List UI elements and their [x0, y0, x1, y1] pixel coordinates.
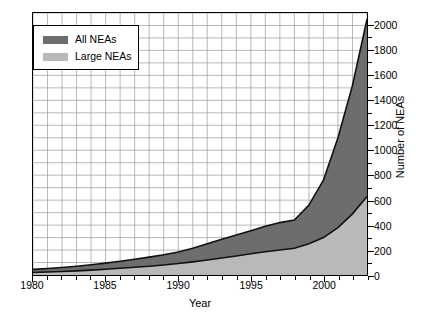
y-axis-tick-label: 800 — [374, 170, 392, 181]
legend-label-large-neas: Large NEAs — [75, 51, 132, 62]
y-axis-minor-tick — [368, 188, 372, 189]
legend-item-large-neas: Large NEAs — [43, 48, 138, 65]
legend-item-all-neas: All NEAs — [43, 31, 138, 48]
light-gray-swatch — [43, 53, 68, 61]
x-axis-tick-label: 1980 — [20, 280, 43, 291]
y-axis-minor-tick — [368, 238, 372, 239]
x-axis-tick-label: 1995 — [239, 280, 262, 291]
x-axis-minor-tick — [222, 276, 223, 280]
y-axis-minor-tick — [368, 163, 372, 164]
y-axis-minor-tick — [368, 113, 372, 114]
y-axis-tick-label: 400 — [374, 220, 392, 231]
y-axis-minor-tick — [368, 138, 372, 139]
x-axis-minor-tick — [90, 276, 91, 280]
y-axis-minor-tick — [368, 263, 372, 264]
x-axis-minor-tick — [295, 276, 296, 280]
x-axis-minor-tick — [193, 276, 194, 280]
x-axis-minor-tick — [237, 276, 238, 280]
x-axis-minor-tick — [353, 276, 354, 280]
y-axis-tick-label: 2000 — [374, 19, 397, 30]
y-axis-tick-label: 1600 — [374, 70, 397, 81]
x-axis-minor-tick — [280, 276, 281, 280]
y-axis-tick-label: 1800 — [374, 44, 397, 55]
y-axis-title: Number of NEAs — [394, 96, 406, 179]
y-axis-minor-tick — [368, 37, 372, 38]
y-axis-tick-label: 600 — [374, 195, 392, 206]
x-axis-tick-label: 2000 — [312, 280, 335, 291]
x-axis-tick-label: 1985 — [93, 280, 116, 291]
x-axis-title: Year — [189, 297, 211, 309]
legend-label-all-neas: All NEAs — [75, 34, 116, 45]
y-axis-minor-tick — [368, 213, 372, 214]
x-axis-minor-tick — [134, 276, 135, 280]
dark-gray-swatch — [43, 36, 68, 44]
x-axis-minor-tick — [120, 276, 121, 280]
chart-figure: 0200400600800100012001400160018002000 19… — [0, 0, 445, 321]
y-axis-tick-label: 200 — [374, 246, 392, 257]
x-axis-minor-tick — [163, 276, 164, 280]
x-axis-minor-tick — [368, 276, 369, 280]
x-axis-minor-tick — [266, 276, 267, 280]
y-axis-minor-tick — [368, 87, 372, 88]
x-axis-minor-tick — [207, 276, 208, 280]
x-axis-minor-tick — [339, 276, 340, 280]
x-axis-minor-tick — [61, 276, 62, 280]
chart-legend: All NEAs Large NEAs — [33, 25, 139, 70]
x-axis-minor-tick — [47, 276, 48, 280]
y-axis-tick-label: 0 — [374, 271, 380, 282]
x-axis-tick-label: 1990 — [166, 280, 189, 291]
x-axis-minor-tick — [76, 276, 77, 280]
x-axis-minor-tick — [149, 276, 150, 280]
y-axis-minor-tick — [368, 62, 372, 63]
x-axis-minor-tick — [310, 276, 311, 280]
